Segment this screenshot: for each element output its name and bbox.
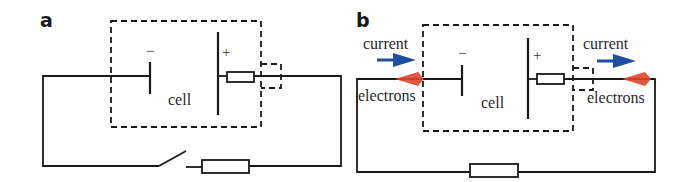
electrons-label-right: electrons [587,89,645,106]
electron-arrow-right-icon [622,72,651,86]
cell-label-b: cell [481,94,505,111]
panel-label-b: b [356,9,370,31]
wire-right-a [249,76,341,166]
circuit-figure: a − + cell b [0,0,688,182]
electrons-label-left: electrons [358,87,416,104]
electron-arrow-left-icon [395,72,424,86]
panel-label-a: a [40,9,53,31]
switch-lever-a [159,151,186,166]
current-label-left: current [363,35,409,52]
panel-a: a − + cell [40,9,341,173]
positive-sign-b: + [533,47,541,63]
current-arrow-left-icon [377,53,416,67]
wire-left-a [43,76,159,166]
internal-resistor-b [537,74,564,84]
negative-sign-a: − [146,43,154,59]
external-resistor-b [470,164,518,177]
cell-label-a: cell [168,91,192,108]
current-arrow-right-icon [597,54,636,68]
panel-b: b − + cell current electrons current [356,9,655,177]
current-label-right: current [583,35,629,52]
negative-sign-b: − [458,45,466,61]
internal-resistor-a [227,72,254,82]
external-resistor-a [202,160,249,173]
positive-sign-a: + [222,44,230,60]
